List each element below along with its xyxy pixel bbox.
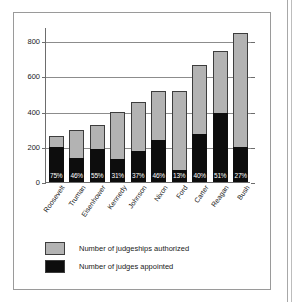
legend-label: Number of judgeships authorized <box>79 245 189 253</box>
x-axis-label: Johnson <box>127 184 148 210</box>
bar-column: 55% <box>90 27 105 182</box>
bar-column: 13% <box>172 27 187 182</box>
x-axis-label: Reagan <box>210 184 230 208</box>
bar-appointed: 27% <box>233 147 248 182</box>
bar-column: 46% <box>69 27 84 182</box>
y-tick-label-200: 200 <box>27 144 40 152</box>
chart-legend: Number of judgeships authorizedNumber of… <box>45 241 245 277</box>
legend-item: Number of judges appointed <box>45 259 245 274</box>
x-axis-label: Kennedy <box>106 184 128 211</box>
plot-wrapper: 0200400600800 75%46%55%31%37%46%13%40%51… <box>14 13 272 291</box>
bar-percent-label: 51% <box>214 172 227 180</box>
plot-area: 0200400600800 75%46%55%31%37%46%13%40%51… <box>45 28 250 183</box>
bar-percent-label: 13% <box>173 172 186 180</box>
x-axis-label: Bush <box>236 184 251 201</box>
bar-authorized <box>172 91 187 182</box>
bar-appointed: 46% <box>69 158 84 182</box>
y-tick-label-0: 0 <box>36 179 40 187</box>
bar-column: 40% <box>192 27 207 182</box>
bar-appointed: 37% <box>131 151 146 182</box>
bar-appointed: 40% <box>192 134 207 182</box>
legend-item: Number of judgeships authorized <box>45 241 245 256</box>
x-axis-labels: RooseveltTrumanEisenhowerKennedyJohnsonN… <box>45 184 250 242</box>
x-axis-label: Roosevelt <box>42 184 66 214</box>
legend-label: Number of judges appointed <box>79 263 173 271</box>
bars-group: 75%46%55%31%37%46%13%40%51%27% <box>46 27 251 182</box>
y-tick-mark-right-400 <box>251 113 255 114</box>
bar-column: 51% <box>213 27 228 182</box>
right-margin-rule-outer <box>287 0 288 302</box>
y-tick-mark-right-800 <box>251 42 255 43</box>
bar-percent-label: 31% <box>111 172 124 180</box>
bar-percent-label: 27% <box>234 172 247 180</box>
x-axis-label: Truman <box>67 184 86 208</box>
x-axis-label: Nixon <box>152 184 168 203</box>
x-axis-label: Carter <box>193 184 210 204</box>
bar-percent-label: 37% <box>132 172 145 180</box>
bar-percent-label: 55% <box>91 172 104 180</box>
bar-appointed: 31% <box>110 159 125 182</box>
y-tick-label-800: 800 <box>27 38 40 46</box>
x-axis-label: Ford <box>175 184 189 200</box>
bar-percent-label: 46% <box>70 172 83 180</box>
y-tick-mark-right-0 <box>251 183 255 184</box>
y-tick-label-400: 400 <box>27 109 40 117</box>
bar-column: 37% <box>131 27 146 182</box>
bar-appointed: 51% <box>213 113 228 182</box>
bar-appointed: 13% <box>172 170 187 182</box>
bar-column: 75% <box>49 27 64 182</box>
chart-frame: 0200400600800 75%46%55%31%37%46%13%40%51… <box>13 12 271 290</box>
bar-percent-label: 40% <box>193 172 206 180</box>
bar-column: 31% <box>110 27 125 182</box>
legend-swatch-appointed <box>45 260 65 273</box>
y-tick-mark-right-200 <box>251 148 255 149</box>
legend-swatch-authorized <box>45 242 65 255</box>
bar-column: 46% <box>151 27 166 182</box>
bar-percent-label: 75% <box>50 172 63 180</box>
figure-page: 0200400600800 75%46%55%31%37%46%13%40%51… <box>0 0 298 302</box>
right-margin-rule-inner <box>291 0 292 302</box>
y-tick-label-600: 600 <box>27 74 40 82</box>
bar-column: 27% <box>233 27 248 182</box>
bar-appointed: 55% <box>90 149 105 182</box>
bar-percent-label: 46% <box>152 172 165 180</box>
y-tick-mark-right-600 <box>251 77 255 78</box>
bar-appointed: 46% <box>151 140 166 182</box>
bar-appointed: 75% <box>49 147 64 182</box>
